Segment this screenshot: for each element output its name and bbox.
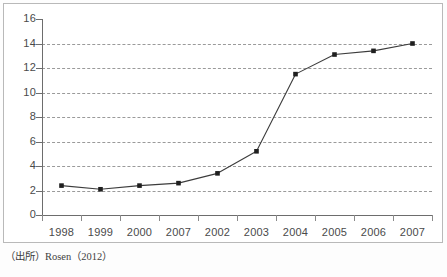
x-tick-mark — [315, 215, 316, 221]
data-point-marker — [59, 183, 64, 188]
y-tick-mark — [36, 191, 42, 192]
data-point-marker — [371, 49, 376, 54]
y-tick-mark — [36, 93, 42, 94]
x-tick-mark — [42, 215, 43, 221]
data-point-marker — [254, 149, 259, 154]
x-tick-mark — [354, 215, 355, 221]
source-note: （出所）Rosen（2012） — [5, 250, 112, 264]
data-point-marker — [293, 72, 298, 77]
x-tick-mark — [276, 215, 277, 221]
y-tick-mark — [36, 44, 42, 45]
x-tick-mark — [159, 215, 160, 221]
x-tick-mark — [198, 215, 199, 221]
data-point-marker — [137, 183, 142, 188]
data-point-marker — [98, 187, 103, 192]
x-tick-mark — [81, 215, 82, 221]
y-tick-mark — [36, 142, 42, 143]
y-tick-mark — [36, 117, 42, 118]
x-tick-mark — [120, 215, 121, 221]
figure-page: 0246810121416 19981999200020072002200320… — [0, 0, 447, 277]
x-tick-mark — [237, 215, 238, 221]
y-tick-mark — [36, 166, 42, 167]
y-tick-mark — [36, 68, 42, 69]
y-tick-mark — [36, 19, 42, 20]
x-tick-mark — [393, 215, 394, 221]
x-tick-mark — [432, 215, 433, 221]
data-point-marker — [410, 41, 415, 46]
data-series — [0, 0, 447, 247]
x-tick-label: 2007 — [387, 226, 439, 238]
line-chart: 0246810121416 19981999200020072002200320… — [0, 0, 447, 247]
data-point-marker — [215, 171, 220, 176]
data-point-marker — [176, 181, 181, 186]
data-point-marker — [332, 52, 337, 57]
